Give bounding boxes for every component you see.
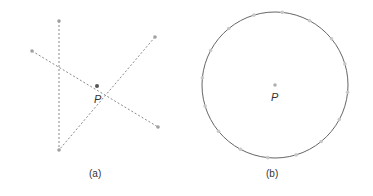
panel-a: P (a) — [30, 19, 160, 179]
circle-marker — [330, 37, 334, 41]
point-p-label-a: P — [94, 93, 102, 105]
endpoint-marker — [57, 148, 61, 152]
circle-marker — [346, 90, 350, 94]
circle-marker — [201, 76, 205, 80]
circle-marker — [343, 62, 347, 66]
endpoint-marker — [57, 19, 61, 23]
endpoint-marker — [156, 125, 160, 129]
figure: P (a) P (b) — [0, 0, 373, 196]
circle-marker — [319, 140, 323, 144]
circle-marker — [266, 156, 270, 160]
panel-b: P (b) — [201, 11, 350, 179]
circle-marker — [338, 118, 342, 122]
dashed-line-3 — [59, 37, 155, 150]
point-p-marker — [95, 84, 99, 88]
dashed-line-2 — [32, 51, 158, 127]
caption-b: (b) — [266, 168, 278, 179]
point-p-marker — [273, 83, 277, 87]
circle-marker — [203, 104, 207, 108]
circle-marker — [239, 148, 243, 152]
circle-marker — [280, 11, 284, 15]
endpoint-marker — [30, 49, 34, 53]
caption-a: (a) — [89, 168, 101, 179]
circle-marker — [308, 19, 312, 23]
circle-marker — [252, 13, 256, 17]
circle-marker — [227, 27, 231, 31]
circle-marker — [217, 129, 221, 133]
circle-marker — [294, 153, 298, 157]
point-p-label-b: P — [271, 91, 279, 103]
circle-marker — [209, 49, 213, 53]
endpoint-marker — [153, 35, 157, 39]
